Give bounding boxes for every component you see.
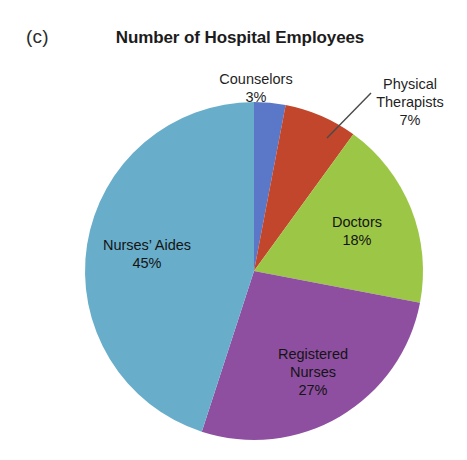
- label-registered-nurses-pct: 27%: [256, 381, 370, 399]
- label-doctors-pct: 18%: [312, 231, 402, 249]
- label-registered-nurses-name-line1: Registered: [256, 345, 370, 363]
- label-doctors: Doctors 18%: [312, 213, 402, 249]
- label-counselors: Counselors 3%: [196, 70, 316, 106]
- label-registered-nurses: Registered Nurses 27%: [256, 345, 370, 399]
- label-nurses-aides-name: Nurses’ Aides: [82, 236, 212, 254]
- label-nurses-aides-pct: 45%: [82, 254, 212, 272]
- label-physical-therapists: Physical Therapists 7%: [358, 75, 462, 129]
- label-nurses-aides: Nurses’ Aides 45%: [82, 236, 212, 272]
- pie-chart-figure: (c) Number of Hospital Employees Counsel…: [0, 0, 467, 460]
- label-counselors-name: Counselors: [196, 70, 316, 88]
- label-doctors-name: Doctors: [312, 213, 402, 231]
- label-physical-therapists-pct: 7%: [358, 111, 462, 129]
- label-physical-therapists-name-line1: Physical: [358, 75, 462, 93]
- label-physical-therapists-name-line2: Therapists: [358, 93, 462, 111]
- label-registered-nurses-name-line2: Nurses: [256, 363, 370, 381]
- label-counselors-pct: 3%: [196, 88, 316, 106]
